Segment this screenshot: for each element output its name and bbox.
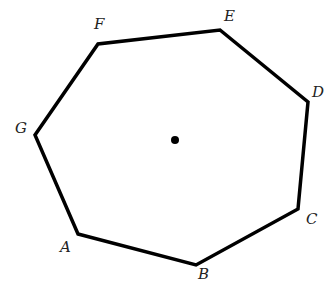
center-point bbox=[171, 136, 179, 144]
vertex-label-a: A bbox=[58, 238, 71, 256]
vertex-label-f: F bbox=[93, 15, 105, 33]
heptagon-shape bbox=[35, 30, 308, 265]
vertex-label-e: E bbox=[223, 7, 235, 25]
vertex-label-g: G bbox=[15, 119, 27, 137]
vertex-labels: A B C D E F G bbox=[15, 7, 324, 283]
vertex-label-c: C bbox=[306, 210, 318, 228]
vertex-label-d: D bbox=[311, 83, 324, 101]
vertex-label-b: B bbox=[197, 265, 209, 283]
heptagon-diagram: A B C D E F G bbox=[0, 0, 335, 284]
